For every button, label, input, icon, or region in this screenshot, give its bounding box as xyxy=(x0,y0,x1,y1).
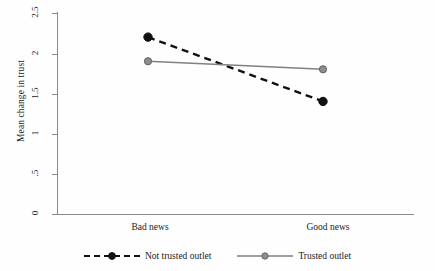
legend-swatch-dashed-black-dot xyxy=(84,250,140,262)
plot-data-layer xyxy=(0,0,435,271)
data-point-trusted-outlet-good-news[interactable] xyxy=(319,66,326,73)
legend-label-not-trusted-outlet: Not trusted outlet xyxy=(145,251,212,261)
data-point-trusted-outlet-bad-news[interactable] xyxy=(144,58,151,65)
data-point-not-trusted-outlet-good-news[interactable] xyxy=(319,97,327,105)
series-line-not-trusted-outlet xyxy=(148,37,323,101)
series-line-trusted-outlet xyxy=(148,61,323,69)
legend-label-trusted-outlet: Trusted outlet xyxy=(298,251,351,261)
legend-swatch-solid-gray-dot xyxy=(237,250,293,262)
chart-legend: Not trusted outlet Trusted outlet xyxy=(0,246,435,266)
data-point-not-trusted-outlet-bad-news[interactable] xyxy=(144,33,152,41)
legend-item-trusted-outlet[interactable]: Trusted outlet xyxy=(237,250,351,262)
legend-item-not-trusted-outlet[interactable]: Not trusted outlet xyxy=(84,250,212,262)
chart-figure: Mean change in trust 0 .5 1 1.5 2 2.5 Ba… xyxy=(0,0,435,271)
